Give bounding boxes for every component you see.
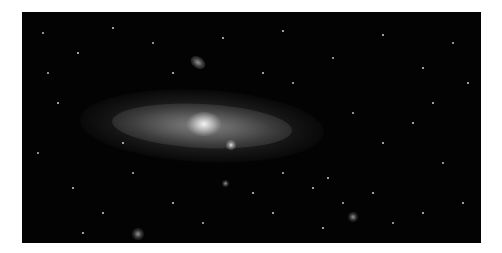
star — [132, 172, 134, 174]
star — [342, 202, 344, 204]
star — [327, 177, 329, 179]
galaxy-core — [187, 112, 221, 136]
star — [412, 122, 414, 124]
satellite-galaxy-compact — [226, 140, 236, 150]
star — [292, 82, 294, 84]
star — [352, 112, 354, 114]
star — [452, 42, 454, 44]
star — [282, 172, 284, 174]
star — [102, 212, 104, 214]
star — [112, 27, 114, 29]
star — [172, 72, 174, 74]
bright-star-bottom-left — [132, 228, 144, 240]
star — [422, 212, 424, 214]
star — [282, 30, 284, 32]
bright-star-bottom-right — [348, 212, 358, 222]
star — [382, 34, 384, 36]
star — [122, 142, 124, 144]
star — [392, 222, 394, 224]
star — [172, 202, 174, 204]
galaxy-photo — [22, 12, 481, 243]
star — [442, 162, 444, 164]
star — [422, 67, 424, 69]
star — [462, 202, 464, 204]
star — [72, 187, 74, 189]
satellite-galaxy-upper — [188, 53, 207, 71]
star — [77, 52, 79, 54]
star — [467, 82, 469, 84]
star — [332, 57, 334, 59]
star — [372, 192, 374, 194]
star — [272, 212, 274, 214]
star — [82, 232, 84, 234]
star — [252, 192, 254, 194]
star — [312, 187, 314, 189]
star — [152, 42, 154, 44]
star — [202, 222, 204, 224]
star — [432, 102, 434, 104]
star — [37, 152, 39, 154]
star — [57, 102, 59, 104]
star — [42, 32, 44, 34]
star — [322, 227, 324, 229]
star — [222, 37, 224, 39]
star — [47, 72, 49, 74]
bright-star-lower-center — [222, 180, 229, 187]
star — [382, 142, 384, 144]
star — [262, 72, 264, 74]
